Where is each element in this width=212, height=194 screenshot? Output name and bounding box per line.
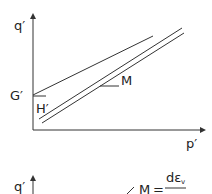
hvorslev-line <box>33 36 153 95</box>
intercept-label: G′ <box>10 88 23 103</box>
equation-lhs: M <box>139 182 150 194</box>
top-x-axis-label: p′ <box>186 136 197 151</box>
equation-op: = <box>153 182 164 194</box>
bottom-leader <box>127 187 134 194</box>
line-label-m: M <box>121 73 132 88</box>
bottom-y-axis-label: q′ <box>14 179 25 194</box>
equation-numerator-sub: v <box>181 178 185 186</box>
equation-numerator: dε <box>166 170 181 185</box>
diagram-canvas: q′ p′ G′ H′ M q′ M = dε v <box>0 0 212 194</box>
csl-line-upper <box>39 28 182 119</box>
csl-line-lower <box>42 33 184 123</box>
top-y-axis-label: q′ <box>14 18 25 33</box>
